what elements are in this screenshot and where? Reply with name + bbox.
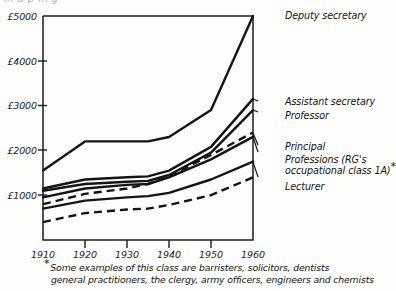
x-tick-label-1940: 1940 bbox=[149, 249, 189, 260]
series-label-professor: Professor bbox=[285, 110, 329, 121]
professions-label-line2: occupational class 1A) bbox=[285, 165, 391, 176]
footnote-marker: * bbox=[44, 257, 49, 270]
series-line-principal bbox=[43, 137, 253, 198]
x-tick-label-1960: 1960 bbox=[233, 249, 273, 260]
x-tick-label-1930: 1930 bbox=[107, 249, 147, 260]
x-axis-ticks bbox=[85, 240, 211, 248]
x-tick-label-1950: 1950 bbox=[191, 249, 231, 260]
footnote: *Some examples of this class are barrist… bbox=[44, 262, 389, 285]
footnote-line2: general practitioners, the clergy, army … bbox=[44, 274, 389, 286]
label-leader-lines bbox=[253, 99, 258, 177]
y-tick-label-2000: £2000 bbox=[0, 145, 37, 156]
y-tick-label-1000: £1000 bbox=[0, 190, 37, 201]
professions-label-line1: Professions (RG's bbox=[285, 154, 366, 165]
y-tick-label-5000: £5000 bbox=[0, 11, 37, 22]
series-label-deputy-secretary: Deputy secretary bbox=[285, 10, 367, 21]
series-label-principal: Principal bbox=[285, 141, 325, 152]
series-label-lecturer: Lecturer bbox=[285, 181, 324, 192]
x-tick-label-1910: 1910 bbox=[23, 249, 63, 260]
x-tick-label-1920: 1920 bbox=[65, 249, 105, 260]
footnote-line1: Some examples of this class are barriste… bbox=[50, 262, 329, 273]
professions-footnote-marker: * bbox=[391, 160, 396, 173]
axis-frame bbox=[43, 16, 253, 240]
y-tick-label-3000: £3000 bbox=[0, 100, 37, 111]
y-tick-label-4000: £4000 bbox=[0, 56, 37, 67]
series-label-assistant-secretary: Assistant secretary bbox=[285, 96, 375, 107]
series-label-professions-rg-1a: Professions (RG's occupational class 1A)… bbox=[285, 154, 396, 176]
series-line-deputy-secretary bbox=[43, 16, 253, 171]
